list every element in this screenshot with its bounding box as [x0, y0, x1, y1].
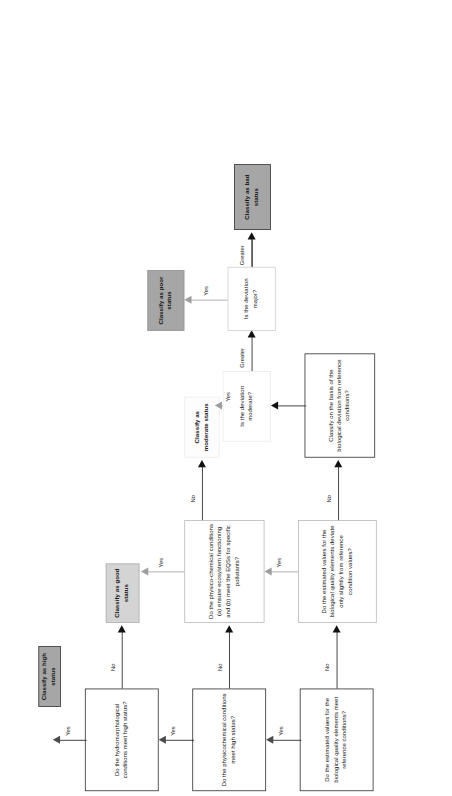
connector-moderate-greater — [252, 336, 253, 371]
edge-label-bio-slight-yes: Yes — [276, 558, 283, 568]
node-classify-on-basis-biological-deviation[interactable]: Classify on the basis of the biological … — [305, 353, 376, 457]
node-label: Classify as poor status — [157, 273, 174, 328]
arrowhead-physchem-eqs-yes — [141, 567, 148, 575]
connector-bio-ref-no — [337, 631, 338, 689]
connector-major-greater-h2 — [252, 238, 253, 267]
arrowhead-physchem-eqs-no — [198, 460, 206, 467]
node-label: Classify as bad status — [244, 167, 261, 226]
arrowhead-moderate-yes — [215, 402, 222, 410]
flowchart-body: Do the estimated values for the biologic… — [45, 161, 452, 796]
edge-label-moderate-greater: Greater — [239, 348, 246, 368]
edge-label-bio-ref-no: No — [324, 663, 331, 670]
arrowhead-bio-slight-no — [334, 460, 342, 467]
node-hydromorphological-high-status[interactable]: Do the hydromorphological conditions mee… — [85, 689, 159, 792]
edge-label-moderate-yes: Yes — [224, 392, 231, 402]
connector-physchem-eqs-no — [202, 466, 203, 521]
arrowhead-physchem-yes — [159, 736, 166, 744]
node-label: Is the deviation major? — [243, 270, 260, 328]
node-classify-bad-status[interactable]: Classify as bad status — [234, 164, 271, 230]
edge-label-bio-slight-no: No — [325, 495, 332, 502]
node-biological-slight-deviation[interactable]: Do the estimated values for the biologic… — [298, 520, 377, 623]
arrowhead-bio-ref-no — [333, 625, 341, 632]
edge-label-physchem-yes: Yes — [170, 726, 177, 736]
edge-label-major-greater: Greater — [239, 245, 246, 265]
arrowhead-bio-ref-yes — [266, 736, 273, 744]
connector-bio-ref-yes — [273, 740, 302, 741]
node-label: Classify as high status — [41, 649, 58, 704]
connector-hydromorph-yes — [59, 740, 86, 741]
node-physicochemical-high-status[interactable]: Do the physicochemical conditions meet h… — [192, 689, 266, 792]
node-label: Do the hydromorphological conditions mee… — [113, 692, 130, 788]
connector-physchem-yes — [165, 740, 194, 741]
connector-physchem-no — [229, 631, 230, 689]
node-classify-high-status[interactable]: Classify as high status — [38, 646, 60, 707]
edge-label-hydromorph-yes: Yes — [64, 726, 71, 736]
arrowhead-major-yes — [184, 296, 191, 304]
connector-basis-to-moderate — [277, 405, 306, 406]
connector-bio-slight-yes — [271, 571, 298, 572]
arrowhead-bio-slight-yes — [264, 567, 271, 575]
arrowhead-physchem-no — [225, 625, 233, 632]
node-label: Classify as good status — [114, 567, 131, 620]
node-label: Classify on the basis of the biological … — [327, 357, 352, 455]
node-is-deviation-moderate[interactable]: Is the deviation moderate? — [223, 371, 271, 442]
edge-label-physchem-eqs-no: No — [189, 495, 196, 502]
node-label: Do the physico-chemical conditions (a) e… — [208, 523, 242, 619]
node-is-deviation-major[interactable]: Is the deviation major? — [228, 267, 276, 331]
node-physico-chemical-eqs[interactable]: Do the physico-chemical conditions (a) e… — [184, 520, 264, 623]
node-label: Classify as moderate status — [193, 400, 210, 455]
edge-label-hydromorph-no: No — [109, 663, 116, 670]
edge-label-major-yes: Yes — [202, 286, 209, 296]
node-classify-poor-status[interactable]: Classify as poor status — [147, 270, 184, 331]
connector-physchem-eqs-yes — [147, 571, 184, 572]
node-biological-reference-conditions[interactable]: Do the estimated values for the biologic… — [300, 689, 374, 792]
arrowhead-moderate-greater — [248, 330, 256, 337]
connector-major-yes — [191, 299, 228, 300]
edge-label-physchem-no: No — [216, 663, 223, 670]
arrowhead-basis-to-moderate — [271, 402, 278, 410]
connector-bio-slight-no — [338, 466, 339, 521]
node-label: Do the estimated values for the biologic… — [324, 692, 349, 788]
edge-label-bio-ref-yes: Yes — [277, 726, 284, 736]
arrowhead-hydromorph-yes — [53, 736, 60, 744]
node-classify-good-status[interactable]: Classify as good status — [106, 563, 140, 622]
node-label: Do the physicochemical conditions meet h… — [221, 692, 238, 788]
edge-label-physchem-eqs-yes: Yes — [157, 558, 164, 568]
node-label: Is the deviation moderate? — [238, 374, 255, 438]
node-label: Do the estimated values for the biologic… — [321, 523, 355, 619]
flowchart-canvas: Do the estimated values for the biologic… — [45, 161, 452, 796]
connector-hydromorph-no — [122, 631, 123, 689]
arrowhead-hydromorph-no — [118, 625, 126, 632]
